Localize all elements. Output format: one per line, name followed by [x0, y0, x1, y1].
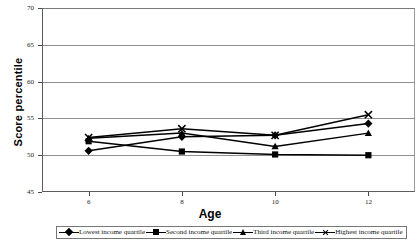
legend-marker-square-icon [146, 227, 166, 238]
data-point-marker [365, 130, 372, 136]
data-point-marker [272, 151, 278, 157]
data-series [86, 138, 372, 158]
legend-item[interactable]: Highest income quartile [315, 227, 403, 238]
legend-label: Lowest income quartile [79, 229, 146, 236]
legend-label: Highest income quartile [335, 229, 403, 236]
data-point-marker [85, 147, 93, 155]
legend: Lowest income quartileSecond income quar… [56, 226, 407, 239]
series-layer [0, 0, 420, 246]
legend-item[interactable]: Lowest income quartile [59, 227, 146, 238]
legend-item[interactable]: Second income quartile [146, 227, 233, 238]
legend-marker-triangle-icon [233, 227, 253, 238]
data-series [85, 119, 373, 154]
legend-label: Second income quartile [166, 229, 233, 236]
series-line [89, 141, 369, 155]
data-point-marker [179, 148, 185, 154]
data-point-marker [364, 119, 372, 127]
legend-item[interactable]: Third income quartile [233, 227, 315, 238]
series-line [89, 115, 369, 138]
legend-marker-diamond-icon [59, 227, 79, 238]
legend-marker-cross-icon [315, 227, 335, 238]
data-point-marker [365, 152, 371, 158]
line-chart: 455055606570 Score percentile 681012 Age… [0, 0, 420, 246]
series-line [89, 124, 369, 151]
legend-label: Third income quartile [253, 229, 315, 236]
